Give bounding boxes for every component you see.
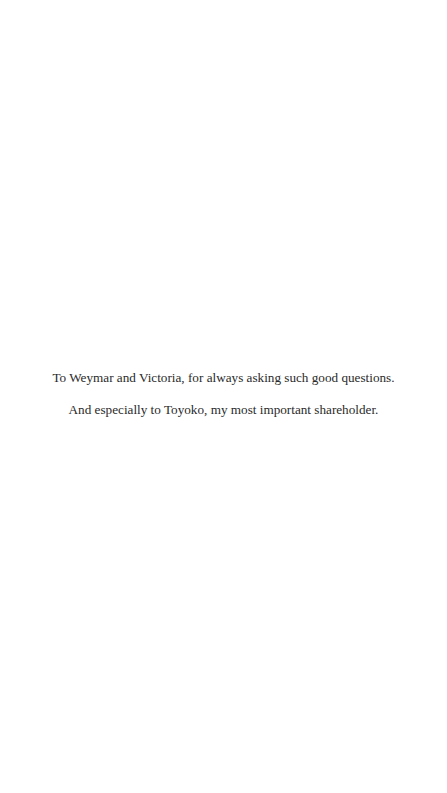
dedication-line-2: And especially to Toyoko, my most import… bbox=[0, 402, 447, 418]
dedication-line-1: To Weymar and Victoria, for always askin… bbox=[0, 370, 447, 386]
dedication-page: To Weymar and Victoria, for always askin… bbox=[0, 0, 447, 793]
